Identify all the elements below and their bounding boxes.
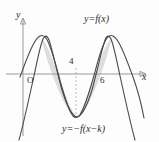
x-tick-label-4: 4 — [69, 57, 74, 66]
x-axis-label: x — [142, 72, 146, 82]
math-figure: y x O 4 6 y=f(x) y=−f(x−k) — [0, 0, 159, 142]
y-axis-label: y — [16, 10, 20, 20]
curve-label-negative-f-of-x-minus-k: y=−f(x−k) — [62, 124, 105, 134]
curve-label-f-of-x: y=f(x) — [84, 14, 109, 24]
origin-label: O — [27, 76, 34, 85]
figure-canvas — [0, 0, 159, 142]
curve-negative-f-of-x-minus-k — [20, 36, 144, 118]
x-tick-label-6: 6 — [100, 76, 105, 85]
shaded-region-right — [77, 38, 112, 117]
